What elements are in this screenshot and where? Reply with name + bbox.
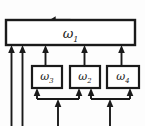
arrow-omega4-to-omega1 (118, 45, 125, 66)
omega-subscript-top: 1 (73, 35, 78, 44)
omega-subscript-right: 4 (125, 77, 129, 85)
arrow-omega3-to-omega1 (42, 45, 49, 66)
external-input-line-1 (8, 45, 15, 126)
arrow-omega2-to-omega1 (81, 45, 88, 66)
input-junction-left (34, 88, 83, 126)
box-label-omega-3: ω3 (32, 70, 62, 85)
diagram-canvas (0, 0, 145, 126)
omega-symbol-top: ω (63, 26, 74, 41)
box-label-omega-2: ω2 (70, 70, 100, 85)
block-diagram: ω1 ω3 ω2 ω4 (0, 0, 145, 126)
omega-symbol-middle: ω (78, 70, 87, 83)
omega-subscript-middle: 2 (87, 77, 91, 85)
box-label-omega-4: ω4 (107, 70, 139, 85)
box-label-omega-1: ω1 (0, 26, 141, 44)
external-input-line-2 (19, 45, 26, 126)
input-junction-right (88, 88, 134, 126)
omega-subscript-left: 3 (49, 77, 53, 85)
omega-symbol-left: ω (40, 70, 49, 83)
omega-symbol-right: ω (116, 70, 125, 83)
